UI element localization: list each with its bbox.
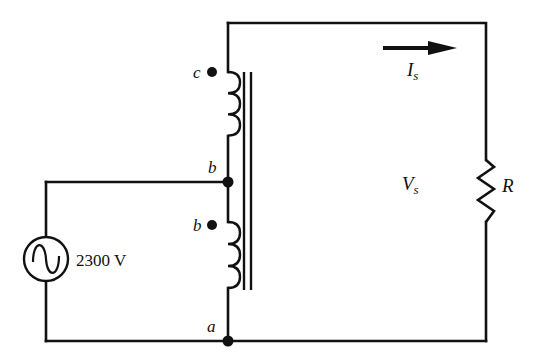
- current-arrow-icon: [383, 41, 457, 55]
- circuit-diagram: c b b a 2300 V Is Vs R: [0, 0, 535, 363]
- label-c: c: [193, 63, 201, 82]
- node-a-junction: [223, 336, 234, 347]
- node-b-junction: [223, 177, 234, 188]
- label-b: b: [193, 216, 202, 235]
- ac-source-icon: [24, 237, 68, 281]
- resistor-icon: [478, 160, 494, 222]
- upper-winding-coil: [228, 72, 240, 136]
- label-node-a: a: [207, 317, 216, 336]
- lower-winding-coil: [228, 222, 240, 288]
- polarity-dot-b: [207, 220, 217, 230]
- voltage-label: Vs: [402, 173, 419, 197]
- current-label: Is: [406, 59, 418, 83]
- label-node-b: b: [208, 158, 217, 177]
- top-wire: [228, 23, 486, 160]
- source-voltage-label: 2300 V: [76, 251, 127, 270]
- transformer-core: [244, 72, 251, 290]
- resistor-label: R: [501, 175, 514, 196]
- polarity-dot-c: [207, 67, 217, 77]
